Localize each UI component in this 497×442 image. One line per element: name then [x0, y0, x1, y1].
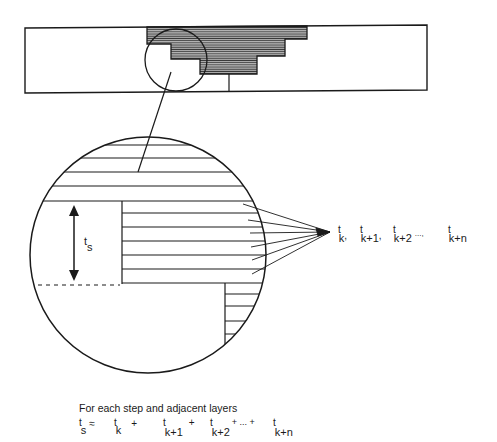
upper-layers	[20, 145, 280, 201]
formula-term-k2: tk+2+ ... +	[210, 417, 255, 438]
formula-term-k: tk+	[114, 417, 137, 436]
formula-term-k1: tk+1+	[163, 417, 195, 438]
layer-label-k2: tk+2...,	[393, 224, 424, 244]
arrow-down-icon	[69, 270, 79, 281]
arrow-up-icon	[69, 205, 79, 216]
detail-leader-line	[138, 72, 171, 172]
caption-formula: For each step and adjacent layers ts≈ tk…	[79, 402, 293, 438]
staircase-overhang	[147, 26, 307, 74]
formula-lhs: ts≈	[79, 417, 95, 436]
layer-label-k: tk,	[338, 224, 347, 244]
layer-labels: tk, tk+1, tk+2..., tk+n	[338, 224, 467, 244]
ts-label: ts	[84, 235, 93, 253]
layer-label-k1: tk+1,	[360, 224, 382, 244]
diagram-canvas: ts tk, tk+1, tk+2..., tk+n	[0, 0, 497, 442]
ts-dimension-arrow	[69, 205, 79, 281]
layer-label-kn: tk+n	[448, 224, 467, 244]
caption-line1: For each step and adjacent layers	[79, 402, 237, 414]
detail-view: ts tk, tk+1, tk+2..., tk+n	[20, 137, 467, 373]
overview-part	[25, 25, 427, 172]
layer-pointer-lines	[243, 204, 330, 274]
formula-term-kn: tk+n	[273, 417, 293, 438]
